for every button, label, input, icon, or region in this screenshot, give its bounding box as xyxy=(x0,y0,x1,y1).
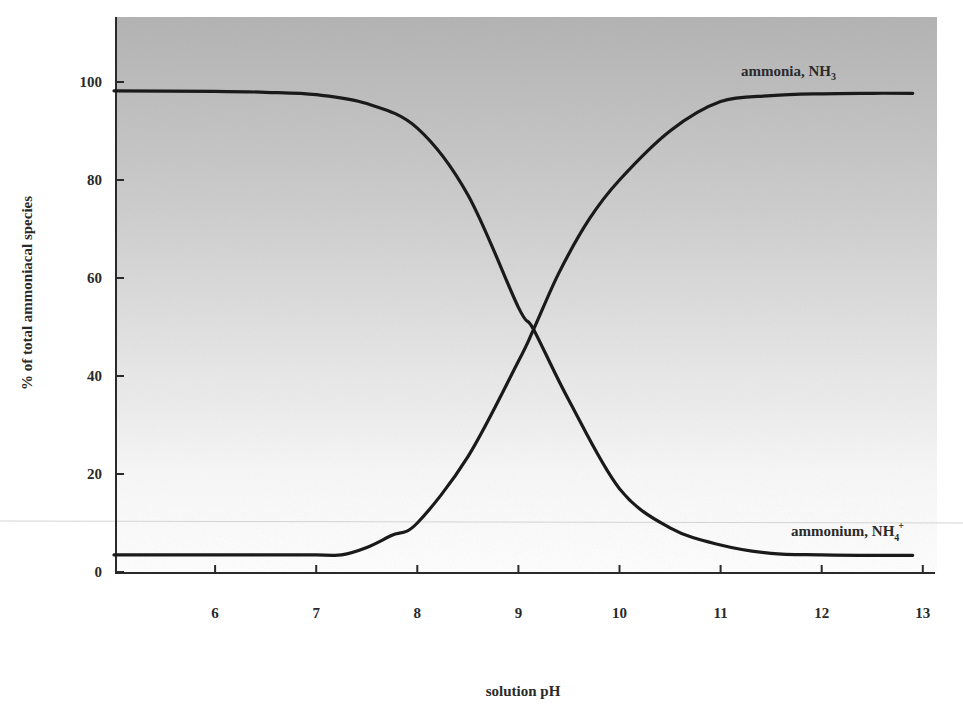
x-axis-title: solution pH xyxy=(486,683,561,699)
y-tick-label: 100 xyxy=(80,74,103,90)
x-tick-label: 7 xyxy=(312,605,320,621)
plot-grain xyxy=(116,17,937,573)
x-tick-label: 8 xyxy=(414,605,422,621)
x-tick-label: 6 xyxy=(211,605,219,621)
y-tick-label: 80 xyxy=(87,172,102,188)
x-tick-label: 10 xyxy=(612,605,627,621)
x-tick-label: 12 xyxy=(814,605,829,621)
y-tick-label: 0 xyxy=(95,564,103,580)
x-tick-label: 11 xyxy=(714,605,728,621)
plot-area xyxy=(116,17,937,573)
y-tick-label: 20 xyxy=(87,466,102,482)
x-tick-label: 13 xyxy=(915,605,930,621)
y-axis-title: % of total ammoniacal species xyxy=(19,196,35,390)
chart: 020406080100 678910111213 ammonia, NH3 a… xyxy=(0,0,963,717)
x-tick-label: 9 xyxy=(515,605,523,621)
y-tick-label: 40 xyxy=(87,368,102,384)
y-tick-label: 60 xyxy=(87,270,102,286)
